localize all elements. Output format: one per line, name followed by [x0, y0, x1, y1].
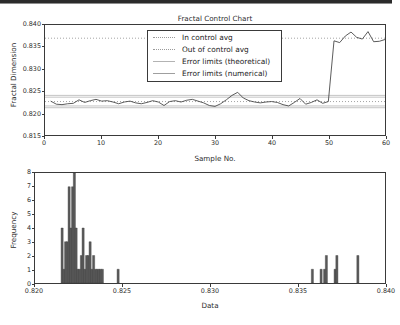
- control-chart-ytick-mark: [42, 114, 45, 115]
- histogram-xtick-mark: [210, 284, 211, 287]
- legend-line-sample: [153, 61, 175, 62]
- control-chart-xtick-mark: [101, 136, 102, 139]
- histogram-bar: [117, 269, 119, 283]
- histogram-ytick-label: 2: [14, 252, 31, 260]
- histogram-bar: [357, 256, 359, 284]
- histogram-bar: [101, 269, 103, 283]
- histogram-ytick-mark: [32, 172, 35, 173]
- histogram-ytick-mark: [32, 228, 35, 229]
- control-chart-title: Fractal Control Chart: [44, 14, 386, 23]
- control-chart-xtick-mark: [44, 136, 45, 139]
- control-chart-ytick-label: 0.825: [14, 87, 41, 95]
- legend-line-sample: [153, 37, 175, 38]
- control-chart-ytick-mark: [42, 69, 45, 70]
- legend-item-4: Error limits (numerical): [148, 67, 281, 79]
- histogram-ytick-label: 7: [14, 182, 31, 190]
- legend-item-2: Out of control avg: [148, 43, 281, 55]
- histogram-bar: [336, 256, 338, 284]
- histogram-xtick-label: 0.830: [192, 287, 228, 295]
- control-chart-ytick-label: 0.835: [14, 42, 41, 50]
- histogram-bar: [311, 269, 313, 283]
- histogram-plot-area: [34, 172, 386, 284]
- histogram-ytick-mark: [32, 270, 35, 271]
- legend-item-label: Error limits (theoretical): [182, 57, 270, 66]
- histogram-xtick-mark: [298, 284, 299, 287]
- histogram-ytick-label: 4: [14, 224, 31, 232]
- histogram-ytick-mark: [32, 186, 35, 187]
- histogram-ytick-mark: [32, 256, 35, 257]
- control-chart-xtick-label: 10: [89, 139, 113, 147]
- control-chart-xtick-label: 50: [317, 139, 341, 147]
- control-chart-ytick-label: 0.830: [14, 65, 41, 73]
- control-chart-ytick-mark: [42, 24, 45, 25]
- histogram-svg: [35, 173, 385, 283]
- histogram-ytick-label: 5: [14, 210, 31, 218]
- control-chart-xtick-mark: [386, 136, 387, 139]
- histogram-ytick-mark: [32, 200, 35, 201]
- control-chart-ytick-label: 0.840: [14, 20, 41, 28]
- control-chart-xtick-mark: [158, 136, 159, 139]
- histogram-panel: Frequency Data 012345678 0.8200.8250.830…: [0, 168, 392, 325]
- legend-line-sample: [153, 73, 175, 74]
- legend-item-label: Out of control avg: [182, 45, 249, 54]
- control-chart-xtick-label: 60: [374, 139, 398, 147]
- legend-line-sample: [153, 49, 175, 50]
- control-chart-legend: In control avgOut of control avgError li…: [147, 30, 282, 82]
- histogram-ytick-mark: [32, 242, 35, 243]
- histogram-ytick-label: 6: [14, 196, 31, 204]
- histogram-xtick-label: 0.840: [368, 287, 400, 295]
- control-chart-ytick-mark: [42, 91, 45, 92]
- control-chart-xtick-mark: [272, 136, 273, 139]
- histogram-xtick-label: 0.835: [280, 287, 316, 295]
- control-chart-xtick-label: 0: [32, 139, 56, 147]
- legend-item-1: In control avg: [148, 31, 281, 43]
- control-chart-panel: Fractal Control Chart Fractal Dimension …: [0, 6, 392, 164]
- histogram-xtick-mark: [386, 284, 387, 287]
- histogram-ytick-label: 3: [14, 238, 31, 246]
- histogram-xtick-mark: [34, 284, 35, 287]
- histogram-bar: [325, 256, 327, 284]
- legend-item-label: In control avg: [182, 33, 233, 42]
- histogram-xlabel: Data: [34, 301, 386, 310]
- control-chart-xtick-label: 30: [203, 139, 227, 147]
- histogram-xtick-label: 0.820: [16, 287, 52, 295]
- control-chart-xtick-label: 40: [260, 139, 284, 147]
- histogram-ytick-label: 8: [14, 168, 31, 176]
- control-chart-xlabel: Sample No.: [44, 154, 386, 163]
- control-chart-xtick-mark: [215, 136, 216, 139]
- control-chart-ytick-label: 0.820: [14, 110, 41, 118]
- histogram-xtick-mark: [122, 284, 123, 287]
- histogram-ytick-label: 1: [14, 266, 31, 274]
- histogram-bar: [320, 269, 322, 283]
- histogram-ytick-mark: [32, 214, 35, 215]
- top-border-hairline: [0, 3, 392, 4]
- histogram-xtick-label: 0.825: [104, 287, 140, 295]
- control-chart-xtick-mark: [329, 136, 330, 139]
- legend-item-3: Error limits (theoretical): [148, 55, 281, 67]
- control-chart-xtick-label: 20: [146, 139, 170, 147]
- legend-item-label: Error limits (numerical): [182, 69, 267, 78]
- control-chart-ytick-mark: [42, 46, 45, 47]
